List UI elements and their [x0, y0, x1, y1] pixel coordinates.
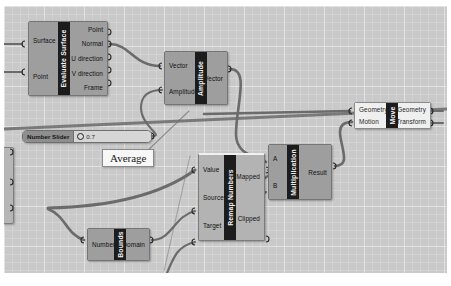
- remap-numbers-outputs: Mapped Clipped: [236, 155, 264, 240]
- number-slider-label: Number Slider: [23, 131, 74, 142]
- node-evaluate-surface[interactable]: Surface Point Evaluate Surface Point Nor…: [28, 21, 108, 96]
- wire-normal-to-vector: [110, 44, 160, 66]
- node-caption-text: Multiplication: [289, 149, 296, 196]
- node-caption-multiplication[interactable]: Multiplication: [287, 145, 299, 199]
- node-caption-text: Remap Numbers: [227, 169, 234, 226]
- node-move[interactable]: Geometry Motion Move Geometry Transform: [354, 102, 431, 129]
- remap-numbers-inputs: Value Source Target: [199, 155, 224, 240]
- port-label-point-in[interactable]: Point: [33, 73, 48, 80]
- node-caption-move[interactable]: Move: [386, 103, 398, 128]
- node-caption-text: Amplitude: [197, 60, 204, 95]
- wire-bounds-to-remap-source: [152, 211, 195, 240]
- port-label-u-direction[interactable]: U direction: [71, 55, 103, 62]
- callout-text: Average: [110, 152, 146, 164]
- bounds-outputs: Domain: [126, 229, 149, 260]
- port-label-geometry-in[interactable]: Geometry: [359, 106, 388, 113]
- number-slider-knob-icon[interactable]: [77, 133, 84, 140]
- wire-off-to-remap-value: [48, 170, 195, 208]
- port-label-geometry-out[interactable]: Geometry: [397, 106, 426, 113]
- node-amplitude[interactable]: Vector Amplitude Amplitude Vector: [164, 51, 228, 105]
- node-caption-text: Evaluate Surface: [60, 30, 67, 88]
- port-label-vector-out[interactable]: Vector: [204, 75, 223, 82]
- multiplication-outputs: Result: [299, 145, 331, 199]
- node-caption-bounds[interactable]: Bounds: [114, 229, 126, 260]
- node-caption-text: Bounds: [117, 231, 124, 258]
- number-slider-value[interactable]: 0.7: [86, 133, 95, 140]
- port-label-motion[interactable]: Motion: [359, 118, 379, 125]
- node-multiplication[interactable]: A B Multiplication Result: [268, 144, 332, 200]
- port-label-point[interactable]: Point: [88, 26, 103, 33]
- wire-result-to-move-motion: [335, 122, 352, 166]
- number-slider[interactable]: Number Slider 0.7: [22, 130, 152, 143]
- port-label-surface[interactable]: Surface: [33, 37, 56, 44]
- port-label-normal[interactable]: Normal: [82, 40, 103, 47]
- port-label-target[interactable]: Target: [203, 222, 221, 229]
- amplitude-inputs: Vector Amplitude: [165, 52, 195, 104]
- bounds-inputs: Numbers: [88, 229, 114, 260]
- callout-average[interactable]: Average: [102, 149, 154, 167]
- port-label-transform[interactable]: Transform: [396, 118, 426, 125]
- screenshot-root: Surface Point Evaluate Surface Point Nor…: [0, 0, 451, 286]
- number-slider-track[interactable]: 0.7: [74, 131, 151, 142]
- node-bounds[interactable]: Numbers Bounds Domain: [87, 228, 150, 261]
- port-label-result[interactable]: Result: [308, 169, 327, 176]
- node-editor-canvas[interactable]: Surface Point Evaluate Surface Point Nor…: [4, 6, 447, 273]
- evaluate-surface-inputs: Surface Point: [29, 22, 58, 95]
- amplitude-outputs: Vector: [207, 52, 227, 104]
- move-outputs: Geometry Transform: [398, 103, 430, 128]
- port-label-source[interactable]: Source: [203, 194, 224, 201]
- port-label-v-direction[interactable]: V direction: [72, 70, 103, 77]
- move-inputs: Geometry Motion: [355, 103, 386, 128]
- node-caption-evaluate-surface[interactable]: Evaluate Surface: [58, 22, 70, 95]
- node-remap-numbers[interactable]: Value Source Target Remap Numbers Mapped…: [198, 153, 265, 241]
- wire-amplitude-to-multiplication-a: [230, 69, 266, 162]
- node-caption-amplitude[interactable]: Amplitude: [195, 52, 207, 104]
- port-label-a[interactable]: A: [273, 155, 277, 162]
- node-caption-remap-numbers[interactable]: Remap Numbers: [224, 155, 236, 240]
- port-label-b[interactable]: B: [273, 182, 277, 189]
- port-label-clipped[interactable]: Clipped: [238, 215, 260, 222]
- evaluate-surface-outputs: Point Normal U direction V direction Fra…: [70, 22, 107, 95]
- node-caption-text: Move: [389, 106, 396, 124]
- port-label-frame[interactable]: Frame: [84, 84, 103, 91]
- multiplication-inputs: A B: [269, 145, 287, 199]
- port-label-value[interactable]: Value: [203, 166, 219, 173]
- port-label-vector-in[interactable]: Vector: [169, 62, 188, 69]
- wire-off-to-bounds-numbers: [48, 209, 84, 240]
- wire-in-remap-target: [167, 242, 195, 273]
- port-label-mapped[interactable]: Mapped: [236, 173, 260, 180]
